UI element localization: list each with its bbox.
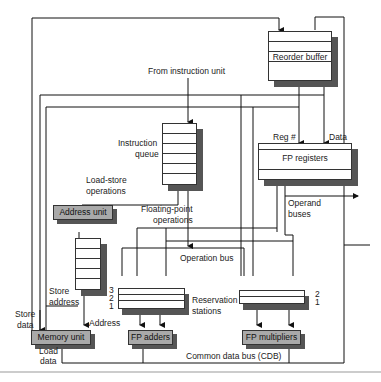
store-address-label-1: Store (49, 286, 69, 296)
store-address-label-2: address (49, 297, 79, 307)
fp-registers: FP registers (258, 143, 352, 180)
reservation-stations-label-1: Reservation (192, 295, 237, 305)
instruction-queue-label-2: queue (135, 149, 159, 159)
rs-adders-num-1: 1 (109, 301, 114, 311)
fp-multipliers: FP multipliers (242, 330, 301, 345)
reservation-stations-multipliers (239, 290, 305, 304)
operation-bus-label: Operation bus (180, 253, 233, 263)
load-store-ops-label-2: operations (86, 186, 126, 196)
from-instruction-unit-label: From instruction unit (148, 66, 225, 76)
load-store-ops-label-1: Load-store (86, 175, 127, 185)
store-data-label-2: data (17, 320, 34, 330)
reorder-buffer-label: Reorder buffer (269, 52, 331, 62)
cdb-label: Common data bus (CDB) (186, 351, 281, 361)
fp-adders: FP adders (128, 330, 173, 345)
load-data-label-1: Load (39, 346, 58, 356)
data-label: Data (329, 132, 347, 142)
instruction-queue (162, 123, 197, 185)
reorder-buffer: Reorder buffer (268, 31, 332, 81)
address-unit: Address unit (53, 205, 113, 220)
reservation-stations-adders (118, 288, 185, 309)
fp-ops-label-2: operations (153, 215, 193, 225)
reservation-stations-label-2: stations (192, 306, 221, 316)
operand-buses-label-1: Operand (288, 198, 321, 208)
operand-buses-label-2: buses (288, 209, 311, 219)
memory-unit: Memory unit (31, 330, 91, 345)
instruction-queue-label-1: Instruction (118, 138, 157, 148)
fp-ops-label-1: Floating-point (141, 204, 193, 214)
rs-mult-num-1: 1 (315, 297, 320, 307)
load-data-label-2: data (40, 356, 57, 366)
reg-num-label: Reg # (273, 132, 296, 142)
fp-registers-label: FP registers (259, 153, 351, 163)
address-label: Address (89, 318, 120, 328)
store-data-label-1: Store (15, 309, 35, 319)
load-buffers (75, 238, 101, 290)
